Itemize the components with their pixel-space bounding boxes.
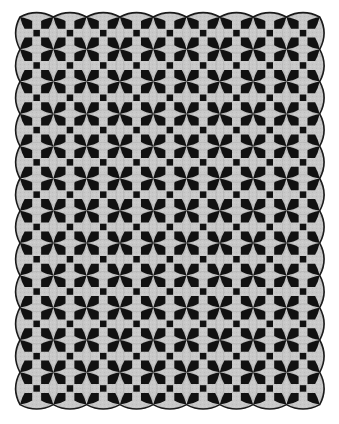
center-square: [267, 224, 274, 231]
center-square: [67, 95, 74, 102]
center-square: [67, 256, 74, 263]
center-square: [300, 30, 307, 37]
center-square: [167, 288, 174, 295]
center-square: [100, 288, 107, 295]
center-square: [167, 321, 174, 328]
center-square: [200, 256, 207, 263]
center-square: [100, 62, 107, 68]
center-square: [233, 127, 240, 134]
center-square: [67, 159, 74, 166]
center-square: [267, 385, 274, 392]
center-square: [267, 256, 274, 263]
center-square: [133, 30, 140, 37]
center-square: [100, 159, 107, 166]
center-square: [233, 353, 240, 360]
center-square: [233, 30, 240, 37]
center-square: [33, 256, 40, 263]
center-square: [167, 95, 174, 102]
center-square: [133, 191, 140, 198]
center-square: [300, 62, 307, 68]
center-square: [100, 353, 107, 360]
center-square: [133, 321, 140, 328]
center-square: [133, 62, 140, 68]
center-square: [267, 62, 274, 68]
center-square: [133, 288, 140, 295]
center-square: [33, 353, 40, 360]
center-square: [267, 127, 274, 134]
center-square: [233, 191, 240, 198]
center-square: [167, 191, 174, 198]
center-square: [67, 127, 74, 134]
center-square: [200, 30, 207, 37]
center-square: [67, 288, 74, 295]
center-square: [100, 385, 107, 392]
center-square: [100, 224, 107, 231]
center-square: [233, 288, 240, 295]
center-square: [33, 159, 40, 166]
center-square: [100, 30, 107, 37]
center-square: [267, 191, 274, 198]
center-square: [133, 127, 140, 134]
center-square: [300, 321, 307, 328]
center-square: [300, 127, 307, 134]
center-square: [67, 321, 74, 328]
center-square: [300, 353, 307, 360]
center-square: [133, 224, 140, 231]
center-square: [300, 224, 307, 231]
center-square: [133, 95, 140, 102]
center-square: [100, 95, 107, 102]
center-square: [200, 353, 207, 360]
center-square: [233, 321, 240, 328]
center-square: [33, 95, 40, 102]
center-square: [33, 127, 40, 134]
center-square: [200, 385, 207, 392]
center-square: [267, 353, 274, 360]
center-square: [167, 385, 174, 392]
center-square: [300, 288, 307, 295]
center-square: [267, 159, 274, 166]
center-square: [167, 127, 174, 134]
center-square: [133, 353, 140, 360]
center-square: [200, 62, 207, 68]
center-square: [233, 224, 240, 231]
center-square: [33, 288, 40, 295]
center-square: [100, 191, 107, 198]
center-square: [133, 159, 140, 166]
center-square: [33, 321, 40, 328]
center-square: [33, 191, 40, 198]
center-square: [200, 191, 207, 198]
center-square: [300, 95, 307, 102]
center-square: [233, 385, 240, 392]
center-square: [200, 127, 207, 134]
center-square: [100, 127, 107, 134]
center-square: [167, 256, 174, 263]
center-square: [167, 353, 174, 360]
center-square: [33, 62, 40, 68]
center-square: [300, 385, 307, 392]
center-square: [167, 224, 174, 231]
quilt: [16, 13, 325, 409]
center-square: [167, 159, 174, 166]
center-square: [67, 385, 74, 392]
center-square: [233, 256, 240, 263]
center-square: [133, 256, 140, 263]
center-square: [33, 224, 40, 231]
center-square: [167, 62, 174, 68]
center-square: [233, 159, 240, 166]
center-square: [200, 224, 207, 231]
center-square: [267, 288, 274, 295]
center-square: [67, 224, 74, 231]
center-square: [33, 30, 40, 37]
center-square: [100, 321, 107, 328]
center-square: [300, 159, 307, 166]
center-square: [100, 256, 107, 263]
center-square: [267, 321, 274, 328]
center-square: [67, 30, 74, 37]
center-square: [67, 62, 74, 68]
center-square: [33, 385, 40, 392]
center-square: [267, 30, 274, 37]
center-square: [267, 95, 274, 102]
center-square: [300, 256, 307, 263]
center-square: [133, 385, 140, 392]
center-square: [200, 95, 207, 102]
